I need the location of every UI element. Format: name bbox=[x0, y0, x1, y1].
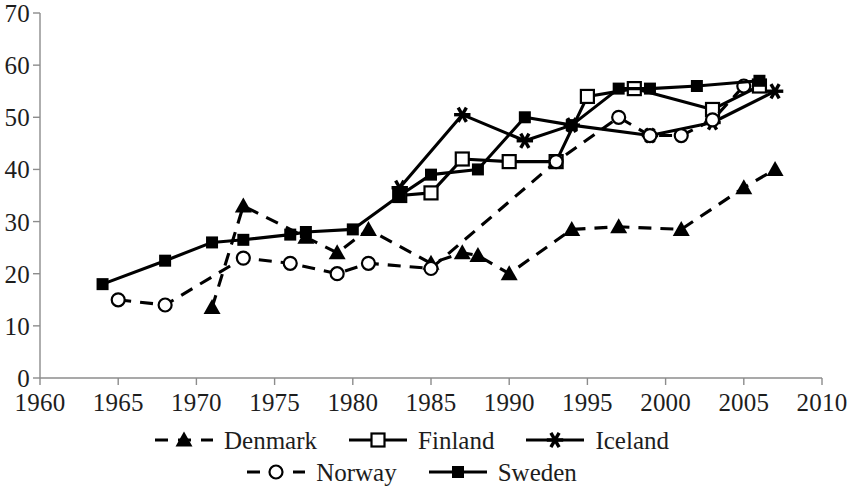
data-point-marker bbox=[270, 466, 283, 479]
data-point-marker bbox=[675, 129, 688, 142]
x-tick-label: 2000 bbox=[621, 390, 711, 415]
data-point-marker bbox=[612, 111, 625, 124]
series-line bbox=[212, 169, 775, 307]
y-tick-label: 40 bbox=[0, 157, 30, 182]
data-point-marker bbox=[673, 221, 690, 236]
x-tick-label: 1985 bbox=[386, 390, 476, 415]
x-tick-label: 1995 bbox=[542, 390, 632, 415]
data-point-marker bbox=[547, 433, 563, 447]
legend-row: NorwaySweden bbox=[0, 456, 852, 488]
x-tick-label: 2010 bbox=[777, 390, 852, 415]
legend-item-sweden[interactable]: Sweden bbox=[427, 460, 577, 485]
legend-item-denmark[interactable]: Denmark bbox=[153, 428, 317, 453]
y-tick-label: 60 bbox=[0, 53, 30, 78]
y-tick-label: 70 bbox=[0, 1, 30, 26]
data-point-marker bbox=[425, 169, 437, 181]
chart-legend: DenmarkFinlandIcelandNorwaySweden bbox=[0, 424, 852, 490]
x-tick-label: 1970 bbox=[151, 390, 241, 415]
x-tick-label: 1965 bbox=[73, 390, 163, 415]
data-point-marker bbox=[425, 262, 438, 275]
data-point-marker bbox=[425, 186, 438, 199]
data-point-marker bbox=[97, 278, 109, 290]
data-point-marker bbox=[284, 257, 297, 270]
y-tick-label: 20 bbox=[0, 262, 30, 287]
data-point-marker bbox=[472, 163, 484, 175]
legend-label: Finland bbox=[418, 428, 494, 453]
data-point-marker bbox=[394, 190, 406, 202]
data-point-marker bbox=[767, 84, 783, 98]
data-point-marker bbox=[362, 257, 375, 270]
data-point-marker bbox=[159, 255, 171, 267]
y-tick-label: 0 bbox=[0, 366, 30, 391]
data-point-marker bbox=[159, 299, 172, 312]
data-point-marker bbox=[452, 466, 464, 478]
legend-label: Denmark bbox=[224, 428, 317, 453]
x-tick-label: 1990 bbox=[464, 390, 554, 415]
data-point-marker bbox=[550, 155, 563, 168]
data-point-marker bbox=[237, 234, 249, 246]
data-point-marker bbox=[206, 236, 218, 248]
data-point-marker bbox=[767, 161, 784, 176]
legend-item-iceland[interactable]: Iceland bbox=[524, 428, 669, 453]
data-point-marker bbox=[613, 83, 625, 95]
data-point-marker bbox=[347, 223, 359, 235]
data-point-marker bbox=[517, 134, 533, 148]
data-point-marker bbox=[644, 83, 656, 95]
y-tick-label: 30 bbox=[0, 210, 30, 235]
legend-symbol-norway bbox=[245, 460, 307, 484]
line-chart: 706050403020100 196019651970197519801985… bbox=[0, 0, 852, 490]
legend-label: Iceland bbox=[595, 428, 669, 453]
plot-area bbox=[0, 0, 852, 430]
legend-label: Norway bbox=[316, 460, 397, 485]
data-point-marker bbox=[643, 129, 656, 142]
series-line bbox=[103, 81, 760, 284]
data-point-marker bbox=[581, 90, 594, 103]
data-point-marker bbox=[753, 75, 765, 87]
y-tick-label: 50 bbox=[0, 105, 30, 130]
data-point-marker bbox=[331, 267, 344, 280]
legend-label: Sweden bbox=[498, 460, 577, 485]
data-point-marker bbox=[456, 153, 469, 166]
x-tick-label: 1980 bbox=[308, 390, 398, 415]
x-tick-label: 2005 bbox=[699, 390, 789, 415]
data-point-marker bbox=[519, 111, 531, 123]
legend-row: DenmarkFinlandIceland bbox=[0, 424, 852, 456]
data-point-marker bbox=[566, 119, 578, 131]
data-point-marker bbox=[300, 226, 312, 238]
legend-symbol-iceland bbox=[524, 428, 586, 452]
data-point-marker bbox=[329, 244, 346, 259]
legend-symbol-sweden bbox=[427, 460, 489, 484]
data-point-marker bbox=[691, 80, 703, 92]
data-series-layer bbox=[97, 75, 784, 314]
x-tick-label: 1975 bbox=[230, 390, 320, 415]
data-point-marker bbox=[235, 197, 252, 212]
data-point-marker bbox=[204, 299, 221, 314]
data-point-marker bbox=[706, 113, 719, 126]
data-point-marker bbox=[735, 179, 752, 194]
data-point-marker bbox=[501, 265, 518, 280]
legend-symbol-finland bbox=[347, 428, 409, 452]
legend-symbol-denmark bbox=[153, 428, 215, 452]
data-point-marker bbox=[237, 252, 250, 265]
legend-item-finland[interactable]: Finland bbox=[347, 428, 494, 453]
legend-item-norway[interactable]: Norway bbox=[245, 460, 397, 485]
data-point-marker bbox=[503, 155, 516, 168]
y-tick-label: 10 bbox=[0, 314, 30, 339]
series-finland bbox=[393, 80, 766, 203]
data-point-marker bbox=[372, 434, 385, 447]
data-point-marker bbox=[112, 293, 125, 306]
data-point-marker bbox=[284, 229, 296, 241]
